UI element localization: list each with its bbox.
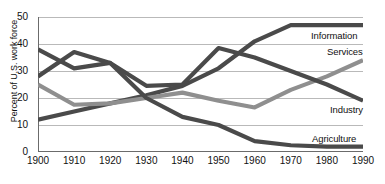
x-axis-tick-labels: 1900191019201930194019501960197019801990 <box>0 156 385 172</box>
x-tick-1990: 1990 <box>343 156 383 166</box>
x-tick-1960: 1960 <box>235 156 275 166</box>
line-chart: Percent of U.S. work force 50403020100 1… <box>0 0 385 184</box>
y-tick-50: 50 <box>6 12 28 22</box>
series-label-industry: Industry <box>330 104 363 115</box>
x-tick-1900: 1900 <box>18 156 58 166</box>
series-line-industry <box>38 48 363 101</box>
series-label-information: Information <box>311 30 357 41</box>
x-tick-1910: 1910 <box>54 156 94 166</box>
y-tick-10: 10 <box>6 120 28 130</box>
x-tick-1950: 1950 <box>199 156 239 166</box>
series-label-agriculture: Agriculture <box>312 133 356 144</box>
x-tick-1980: 1980 <box>307 156 347 166</box>
series-label-services: Services <box>327 46 363 57</box>
x-tick-1940: 1940 <box>162 156 202 166</box>
y-tick-40: 40 <box>6 39 28 49</box>
x-tick-1930: 1930 <box>126 156 166 166</box>
x-tick-1920: 1920 <box>90 156 130 166</box>
y-tick-20: 20 <box>6 93 28 103</box>
x-tick-1970: 1970 <box>271 156 311 166</box>
y-tick-30: 30 <box>6 66 28 76</box>
